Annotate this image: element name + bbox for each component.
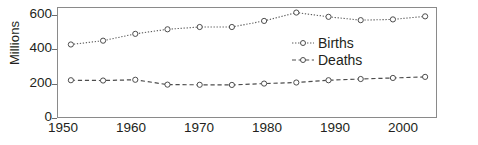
legend-label-births: Births (318, 36, 354, 50)
data-point-births (133, 31, 138, 36)
y-tick-label: 400 (8, 40, 52, 55)
y-tick-label: 0 (8, 109, 52, 124)
data-point-deaths (229, 82, 234, 87)
data-point-deaths (262, 81, 267, 86)
y-tick-label: 200 (8, 75, 52, 90)
data-point-births (262, 18, 267, 23)
data-point-births (197, 24, 202, 29)
data-point-births (229, 24, 234, 29)
legend-item-births: Births (292, 36, 354, 50)
x-tick-label: 1960 (116, 120, 146, 135)
x-tick-label: 1950 (48, 120, 78, 135)
x-tick-label: 1980 (252, 120, 282, 135)
legend-marker-births-icon (292, 38, 314, 48)
legend-item-deaths: Deaths (292, 53, 362, 67)
data-point-deaths (165, 82, 170, 87)
data-point-births (100, 38, 105, 43)
legend-marker-deaths-icon (292, 55, 314, 65)
series-canvas (58, 8, 438, 119)
data-point-deaths (326, 78, 331, 83)
data-point-deaths (68, 78, 73, 83)
data-point-deaths (358, 76, 363, 81)
legend-label-deaths: Deaths (318, 53, 362, 67)
data-point-births (68, 42, 73, 47)
x-tick-label: 1990 (320, 120, 350, 135)
y-tick-mark (52, 118, 57, 119)
data-point-births (294, 10, 299, 15)
data-point-births (358, 18, 363, 23)
plot-area (57, 7, 437, 118)
data-point-deaths (100, 78, 105, 83)
chart-container: Millions 600 400 200 0 1950 1960 1970 19… (0, 0, 478, 145)
data-point-deaths (133, 77, 138, 82)
data-point-births (326, 14, 331, 19)
y-tick-label: 600 (8, 6, 52, 21)
x-tick-label: 2000 (388, 120, 418, 135)
data-point-deaths (390, 75, 395, 80)
y-axis-tick-labels: 600 400 200 0 (4, 0, 52, 145)
data-point-deaths (423, 74, 428, 79)
data-point-deaths (197, 82, 202, 87)
data-point-deaths (294, 80, 299, 85)
x-tick-label: 1970 (184, 120, 214, 135)
data-point-births (423, 14, 428, 19)
series-line-births (71, 13, 425, 45)
data-point-births (165, 27, 170, 32)
series-line-deaths (71, 77, 425, 85)
data-point-births (390, 17, 395, 22)
